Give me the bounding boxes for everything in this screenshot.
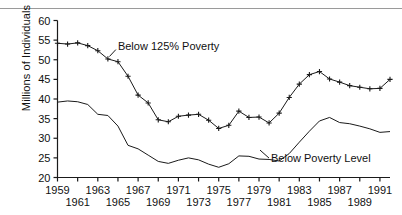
y-tick-label-30: 30	[38, 132, 50, 144]
data-point-marker	[337, 80, 342, 85]
x-tick-label-1989: 1989	[348, 196, 372, 208]
data-point-marker	[186, 112, 191, 117]
y-tick-label-25: 25	[38, 152, 50, 164]
x-tick-label-1973: 1973	[186, 196, 210, 208]
data-point-marker	[176, 114, 181, 119]
annotation-leader-1	[109, 50, 116, 57]
x-tick-label-1975: 1975	[206, 184, 230, 196]
series-markers-below-125-poverty	[55, 40, 393, 131]
data-point-marker	[156, 117, 161, 122]
data-point-marker	[196, 112, 201, 117]
x-tick-label-1977: 1977	[227, 196, 251, 208]
annotation-label-below-poverty-level: Below Poverty Level	[271, 152, 371, 164]
x-tick-label-1983: 1983	[287, 184, 311, 196]
data-point-marker	[367, 86, 372, 91]
plot-canvas: 2025303540455055601959196319671971197519…	[0, 0, 402, 215]
data-point-marker	[65, 41, 70, 46]
x-tick-label-1969: 1969	[146, 196, 170, 208]
data-point-marker	[75, 40, 80, 45]
data-point-marker	[357, 85, 362, 90]
y-tick-label-45: 45	[38, 73, 50, 85]
x-tick-label-1965: 1965	[106, 196, 130, 208]
annotation-leader-2	[260, 150, 269, 158]
y-tick-label-35: 35	[38, 113, 50, 125]
x-tick-label-1967: 1967	[126, 184, 150, 196]
data-point-marker	[347, 83, 352, 88]
data-point-marker	[256, 114, 261, 119]
x-tick-label-1979: 1979	[247, 184, 271, 196]
x-tick-label-1961: 1961	[65, 196, 89, 208]
x-tick-label-1981: 1981	[267, 196, 291, 208]
y-tick-label-60: 60	[38, 15, 50, 27]
x-tick-label-1987: 1987	[327, 184, 351, 196]
annotation-label-below-125-poverty: Below 125% Poverty	[118, 40, 220, 52]
data-point-marker	[55, 41, 60, 46]
x-tick-label-1985: 1985	[307, 196, 331, 208]
data-point-marker	[246, 115, 251, 120]
data-point-marker	[166, 119, 171, 124]
x-tick-label-1963: 1963	[86, 184, 110, 196]
y-tick-label-20: 20	[38, 172, 50, 184]
data-point-marker	[85, 43, 90, 48]
x-tick-label-1959: 1959	[45, 184, 69, 196]
y-tick-label-50: 50	[38, 54, 50, 66]
x-tick-label-1991: 1991	[368, 184, 392, 196]
y-tick-label-40: 40	[38, 93, 50, 105]
chart-figure: Millions of Individuals 2025303540455055…	[0, 0, 402, 215]
y-tick-label-55: 55	[38, 34, 50, 46]
x-tick-label-1971: 1971	[166, 184, 190, 196]
